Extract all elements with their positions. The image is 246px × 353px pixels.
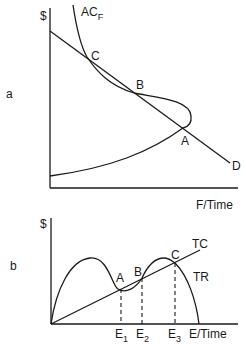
- point-a-label: A: [116, 271, 124, 285]
- panel-b-label: b: [10, 259, 17, 273]
- panel-a-x-axis-label: F/Time: [196, 198, 233, 212]
- average-cost-label: ACF: [81, 5, 104, 22]
- diagram-canvas: a $ F/Time D ACF C B A b $ TC TR A B C E: [0, 0, 246, 353]
- point-c-label: C: [91, 49, 100, 63]
- point-a-label: A: [181, 134, 189, 148]
- point-b-label: B: [136, 78, 144, 92]
- point-c-label: C: [171, 248, 180, 262]
- total-revenue-curve: [51, 258, 199, 324]
- total-revenue-label: TR: [193, 270, 209, 284]
- total-cost-label: TC: [192, 237, 208, 251]
- panel-a-label: a: [6, 87, 13, 101]
- panel-b: b $ TC TR A B C E1 E2 E3 E/Time: [10, 217, 238, 344]
- demand-label: D: [232, 159, 241, 173]
- panel-b-y-axis-label: $: [40, 217, 47, 231]
- panel-a-y-axis-label: $: [40, 9, 47, 23]
- panel-a: a $ F/Time D ACF C B A: [6, 5, 241, 212]
- point-b-label: B: [134, 265, 142, 279]
- e1-label: E1: [115, 327, 128, 344]
- panel-b-x-axis-label: E/Time: [189, 327, 227, 341]
- demand-curve: [50, 31, 230, 163]
- e3-label: E3: [168, 327, 181, 344]
- average-cost-curve: [50, 5, 191, 176]
- e2-label: E2: [136, 327, 149, 344]
